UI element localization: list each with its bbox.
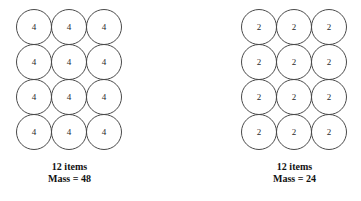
item-circle: 2 — [276, 79, 312, 115]
item-value: 2 — [327, 92, 332, 101]
item-circle: 2 — [241, 44, 277, 80]
item-circle: 2 — [311, 44, 347, 80]
item-circle: 4 — [16, 9, 52, 45]
item-circle: 2 — [276, 114, 312, 150]
item-value: 4 — [32, 57, 37, 66]
item-circle: 4 — [51, 44, 87, 80]
item-circle: 2 — [311, 79, 347, 115]
diagram-canvas: 4 4 4 4 4 4 4 4 4 4 4 4 12 items Mass = … — [0, 0, 361, 201]
item-circle: 4 — [16, 44, 52, 80]
mass-label: Mass = 24 — [241, 173, 348, 185]
item-circle: 4 — [51, 9, 87, 45]
item-value: 2 — [327, 22, 332, 31]
item-value: 4 — [32, 22, 37, 31]
circle-grid-left: 4 4 4 4 4 4 4 4 4 4 4 4 — [16, 0, 123, 143]
item-circle: 2 — [276, 9, 312, 45]
group-caption-right: 12 items Mass = 24 — [241, 161, 348, 185]
item-circle: 2 — [241, 79, 277, 115]
item-circle: 4 — [86, 44, 122, 80]
item-count-label: 12 items — [241, 161, 348, 173]
mass-label: Mass = 48 — [16, 173, 123, 185]
item-circle: 2 — [241, 9, 277, 45]
item-value: 4 — [67, 57, 72, 66]
item-value: 2 — [257, 22, 262, 31]
item-count-label: 12 items — [16, 161, 123, 173]
item-value: 2 — [257, 127, 262, 136]
item-value: 2 — [292, 22, 297, 31]
item-value: 4 — [102, 57, 107, 66]
item-value: 4 — [102, 92, 107, 101]
item-value: 4 — [102, 22, 107, 31]
item-circle: 4 — [16, 114, 52, 150]
item-circle: 2 — [241, 114, 277, 150]
item-value: 2 — [292, 57, 297, 66]
item-value: 4 — [32, 127, 37, 136]
item-circle: 4 — [16, 79, 52, 115]
item-value: 4 — [67, 127, 72, 136]
group-caption-left: 12 items Mass = 48 — [16, 161, 123, 185]
item-value: 2 — [257, 57, 262, 66]
item-value: 4 — [32, 92, 37, 101]
item-circle: 4 — [51, 79, 87, 115]
item-circle: 2 — [276, 44, 312, 80]
item-circle: 2 — [311, 114, 347, 150]
item-value: 2 — [292, 127, 297, 136]
item-value: 4 — [67, 92, 72, 101]
item-circle: 4 — [86, 79, 122, 115]
circle-grid-right: 2 2 2 2 2 2 2 2 2 2 2 2 — [241, 0, 348, 143]
item-circle: 2 — [311, 9, 347, 45]
item-value: 2 — [292, 92, 297, 101]
item-circle: 4 — [86, 9, 122, 45]
item-circle: 4 — [86, 114, 122, 150]
item-value: 4 — [102, 127, 107, 136]
item-value: 2 — [257, 92, 262, 101]
item-value: 4 — [67, 22, 72, 31]
item-group-right: 2 2 2 2 2 2 2 2 2 2 2 2 — [241, 0, 348, 143]
item-group-left: 4 4 4 4 4 4 4 4 4 4 4 4 — [16, 0, 123, 143]
item-value: 2 — [327, 57, 332, 66]
item-value: 2 — [327, 127, 332, 136]
item-circle: 4 — [51, 114, 87, 150]
